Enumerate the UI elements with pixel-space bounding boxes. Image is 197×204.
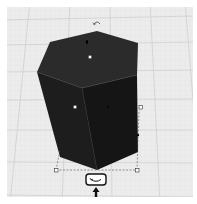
- handle-left-side: [74, 106, 77, 109]
- handle-right-side: [139, 106, 143, 110]
- handle-top-height: [89, 56, 92, 59]
- rotate-button[interactable]: [86, 174, 106, 185]
- handle-bottom-left: [55, 169, 59, 173]
- 3d-viewport[interactable]: [7, 7, 193, 197]
- handle-bottom-right: [136, 169, 140, 173]
- scene: [7, 7, 193, 197]
